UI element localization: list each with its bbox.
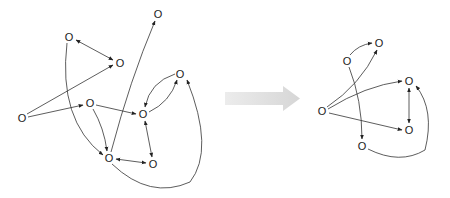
edge-g-h [149, 80, 177, 112]
left-graph-nodes: O O O O O O O O O [18, 8, 185, 170]
edge-r1-r6 [349, 67, 362, 139]
node-r3: O [318, 105, 327, 117]
node-r2: O [375, 37, 384, 49]
edge-r3-r4 [328, 81, 402, 109]
node-h: O [176, 68, 185, 80]
node-i: O [154, 8, 163, 20]
edge-d-g [96, 105, 136, 114]
edge-r1-r2 [350, 43, 372, 55]
edge-d-e [93, 109, 107, 151]
node-d: O [86, 97, 95, 109]
node-g: O [139, 108, 148, 120]
edge-r3-r5 [329, 113, 402, 130]
node-e: O [105, 152, 114, 164]
edge-c-b [27, 65, 113, 114]
node-a: O [65, 31, 74, 43]
edge-e-f [116, 159, 146, 163]
node-r5: O [405, 124, 414, 136]
edge-a-b [76, 40, 113, 60]
graph-diagram: O O O O O O O O O O O O O O O [0, 0, 450, 198]
edge-g-f [145, 121, 152, 157]
transform-arrow-icon [225, 86, 300, 111]
edge-e-i [111, 21, 155, 152]
edge-c-d [28, 105, 83, 117]
node-r6: O [358, 140, 367, 152]
edge-r6-r4 [368, 86, 428, 157]
node-f: O [149, 158, 158, 170]
edge-h-g [145, 74, 175, 107]
edge-e-h [112, 80, 202, 188]
right-graph-nodes: O O O O O O [318, 37, 414, 152]
left-graph-edges [27, 21, 202, 188]
node-c: O [18, 112, 27, 124]
node-r4: O [405, 75, 414, 87]
node-b: O [116, 57, 125, 69]
node-r1: O [343, 55, 352, 67]
edge-a-e [66, 43, 104, 155]
edge-r3-r2 [327, 50, 377, 107]
